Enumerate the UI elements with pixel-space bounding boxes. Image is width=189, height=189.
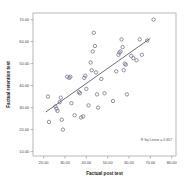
data-point: [60, 118, 63, 121]
y-tick-label: 40.00: [19, 83, 30, 88]
data-point: [87, 104, 90, 107]
data-point: [93, 44, 96, 47]
chart-root: 20.0030.0040.0050.0060.0070.0080.00 10.0…: [0, 0, 189, 189]
data-point: [70, 102, 73, 105]
data-point: [59, 96, 62, 99]
plot-frame: [33, 13, 176, 156]
x-tick-label: 30.00: [60, 160, 71, 165]
x-tick-label: 70.00: [146, 160, 157, 165]
x-tick-label: 40.00: [81, 160, 92, 165]
data-point: [46, 95, 49, 98]
data-point: [103, 92, 106, 95]
data-point: [132, 56, 135, 59]
x-tick-label: 50.00: [103, 160, 114, 165]
y-tick-label: 70.00: [19, 17, 30, 22]
data-point: [138, 38, 141, 41]
data-point: [61, 128, 64, 131]
y-tick-label: 50.00: [19, 61, 30, 66]
y-tick-label: 20.00: [19, 127, 30, 132]
data-point: [140, 53, 143, 56]
data-point: [120, 38, 123, 41]
y-tick-label: 60.00: [19, 39, 30, 44]
data-point: [152, 18, 155, 21]
x-tick-label: 20.00: [39, 160, 50, 165]
data-point: [47, 120, 50, 123]
y-tick-label: 10.00: [19, 149, 30, 154]
data-point-group: [46, 18, 155, 131]
data-point: [121, 45, 124, 48]
scatter-plot-svg: 20.0030.0040.0050.0060.0070.0080.00 10.0…: [0, 0, 189, 189]
data-point: [115, 70, 118, 73]
data-point: [91, 50, 94, 53]
data-point: [111, 99, 114, 102]
r-squared-annotation: R Sq Linear = 0.657: [141, 138, 172, 142]
data-point: [89, 61, 92, 64]
x-tick-label: 80.00: [167, 160, 178, 165]
y-axis-title: Factual retention test: [6, 61, 11, 108]
data-point: [125, 93, 128, 96]
data-point: [90, 69, 93, 72]
data-point: [122, 69, 125, 72]
data-point: [94, 71, 97, 74]
data-point: [73, 114, 76, 117]
data-point: [96, 106, 99, 109]
x-tick-label: 60.00: [124, 160, 135, 165]
regression-line: [46, 38, 151, 112]
y-axis-tick-labels: 10.0020.0030.0040.0050.0060.0070.00: [19, 17, 30, 154]
x-axis-title: Factual post test: [86, 171, 123, 176]
scatter-plot-container: 20.0030.0040.0050.0060.0070.0080.00 10.0…: [0, 0, 189, 189]
data-point: [92, 31, 95, 34]
data-point: [95, 93, 98, 96]
y-axis-tickmarks: [31, 20, 34, 152]
x-axis-tickmarks: [44, 156, 172, 159]
data-point: [100, 77, 103, 80]
data-point: [85, 87, 88, 90]
x-axis-tick-labels: 20.0030.0040.0050.0060.0070.0080.00: [39, 160, 178, 165]
data-point: [135, 59, 138, 62]
y-tick-label: 30.00: [19, 105, 30, 110]
